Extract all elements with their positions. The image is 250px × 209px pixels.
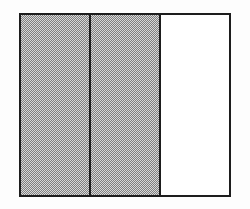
figure-canvas [0, 0, 250, 209]
section-2-shaded [89, 15, 159, 195]
section-3-unshaded [159, 15, 229, 195]
section-1-shaded [21, 15, 89, 195]
fraction-square [19, 13, 231, 197]
